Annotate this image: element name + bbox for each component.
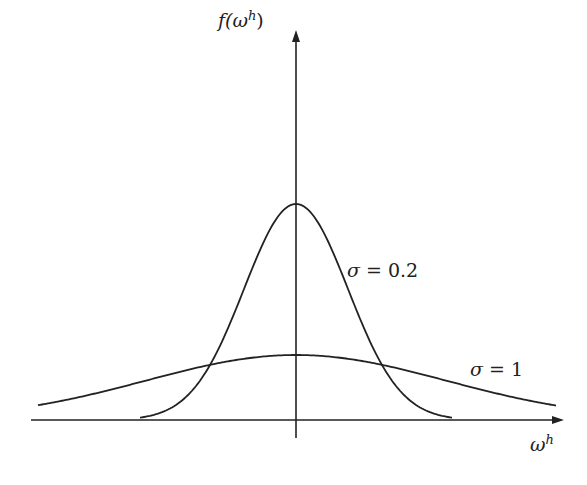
sigma-value: = 0.2 — [360, 259, 418, 281]
x-axis-label: ωh — [530, 432, 554, 455]
x-label-omega: ω — [530, 433, 546, 455]
y-axis-arrow-icon — [292, 30, 300, 42]
sigma-value: = 1 — [483, 358, 523, 380]
gaussian-plot — [0, 0, 587, 485]
sigma-symbol: σ — [470, 358, 483, 380]
sigma-symbol: σ — [347, 259, 360, 281]
x-label-sup: h — [546, 432, 554, 447]
y-label-f: f( — [218, 9, 232, 31]
y-label-omega: ω — [232, 9, 248, 31]
y-label-close: ) — [256, 9, 263, 31]
annotation-sigma-wide: σ = 1 — [470, 358, 523, 380]
annotation-sigma-narrow: σ = 0.2 — [347, 259, 418, 281]
y-axis-label: f(ωh) — [218, 8, 264, 31]
x-axis-arrow-icon — [552, 416, 564, 424]
